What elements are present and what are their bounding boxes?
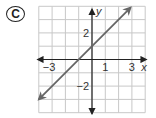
x-tick-label: 3: [129, 61, 135, 73]
x-axis-label: x: [140, 61, 147, 73]
x-tick-label: 1: [102, 61, 108, 73]
y-tick-label: −2: [76, 80, 89, 92]
y-axis-label: y: [95, 5, 103, 17]
x-tick-label: −3: [43, 61, 56, 73]
coordinate-graph: −3132−2xy: [0, 0, 156, 118]
y-tick-label: 2: [83, 27, 89, 39]
